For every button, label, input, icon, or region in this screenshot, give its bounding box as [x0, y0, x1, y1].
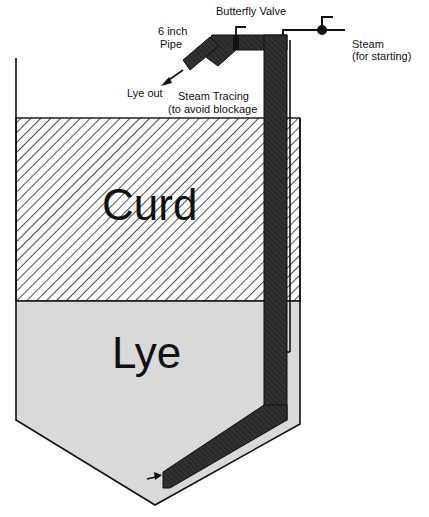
lye-out-label: Lye out	[127, 87, 163, 99]
steam-supply-valve	[316, 17, 345, 35]
steam-label-line2: (for starting)	[352, 50, 411, 62]
lye-label: Lye	[112, 328, 181, 377]
tank-diagram: Butterfly Valve 6 inch Pipe Lye out Stea…	[0, 0, 429, 517]
butterfly-valve-label: Butterfly Valve	[216, 5, 286, 17]
steam-tracing-label-line1: Steam Tracing	[178, 90, 249, 102]
pipe-size-label-line1: 6 inch	[158, 25, 187, 37]
steam-tracing-label-line2: (to avoid blockage	[168, 103, 257, 115]
steam-label-line1: Steam	[352, 38, 384, 50]
curd-label: Curd	[102, 180, 197, 229]
pipe-size-label-line2: Pipe	[160, 38, 182, 50]
lye-out-arrow	[161, 70, 183, 86]
